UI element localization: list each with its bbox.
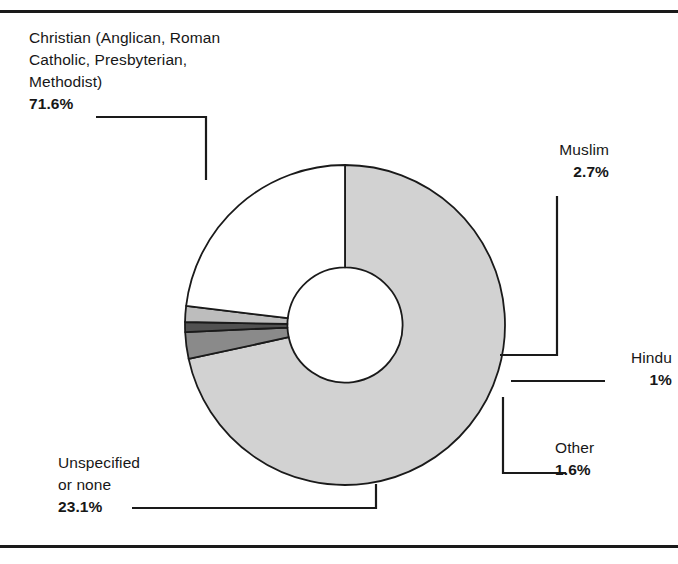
leader-line-muslim [500,196,557,355]
callout-christian: Christian (Anglican, Roman Catholic, Pre… [29,27,244,115]
callout-other-name: Other [555,437,640,459]
pie-slices [185,165,505,485]
callout-muslim: Muslim 2.7% [505,139,609,183]
callout-other: Other 1.6% [555,437,640,481]
callout-christian-line1: Christian (Anglican, Roman [29,27,244,49]
callout-unspecified-line2: or none [58,474,238,496]
callout-christian-line2: Catholic, Presbyterian, [29,49,244,71]
callout-christian-percent: 71.6% [29,93,244,115]
callout-unspecified-percent: 23.1% [58,496,238,518]
pie-chart-figure: Christian (Anglican, Roman Catholic, Pre… [0,0,678,564]
callout-christian-line3: Methodist) [29,71,244,93]
callout-muslim-name: Muslim [505,139,609,161]
callout-unspecified: Unspecified or none 23.1% [58,452,238,518]
callout-muslim-percent: 2.7% [505,161,609,183]
callout-hindu-percent: 1% [590,369,672,391]
leader-line-christian [96,117,206,180]
callout-hindu-name: Hindu [590,347,672,369]
pie-slice-unspecified [186,165,345,318]
callout-other-percent: 1.6% [555,459,640,481]
callout-hindu: Hindu 1% [590,347,672,391]
callout-unspecified-line1: Unspecified [58,452,238,474]
